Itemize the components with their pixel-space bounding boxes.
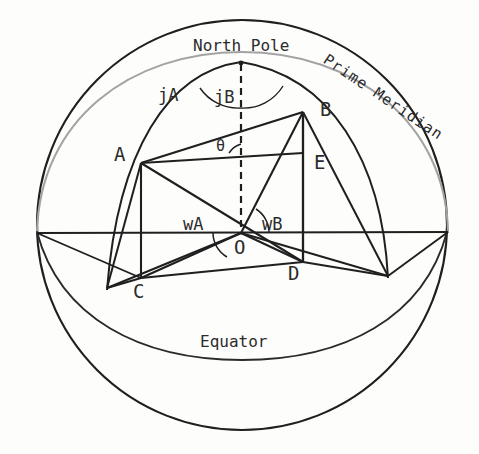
angle-arc-wa <box>213 233 227 257</box>
equator-label: Equator <box>200 334 267 350</box>
point-e-label: E <box>314 153 325 172</box>
point-b-label: B <box>320 100 331 119</box>
north-pole-label: North Pole <box>193 38 289 54</box>
angle-wb-label: wB <box>262 216 282 233</box>
segment-o-surface-right-eq <box>241 233 388 276</box>
angle-arc-jb <box>241 86 283 108</box>
segment-o-surface-left-eq <box>107 233 241 288</box>
north-pole-vertex <box>239 61 244 66</box>
angle-ja-label: jA <box>158 87 178 104</box>
origin-label: O <box>234 238 245 257</box>
diagram-canvas <box>0 0 479 454</box>
point-a-label: A <box>114 145 125 164</box>
angle-arc-theta <box>229 144 241 153</box>
globe-geometry-figure: North Pole Prime Meridian Equator jA jB … <box>0 0 479 454</box>
segment-a-surface-left <box>107 163 141 288</box>
angle-jb-label: jB <box>214 89 234 106</box>
point-d-label: D <box>288 264 299 283</box>
point-c-label: C <box>133 282 144 301</box>
segment-a-o <box>141 163 303 262</box>
angle-wa-label: wA <box>183 216 203 233</box>
angle-theta-label: θ <box>216 139 225 154</box>
